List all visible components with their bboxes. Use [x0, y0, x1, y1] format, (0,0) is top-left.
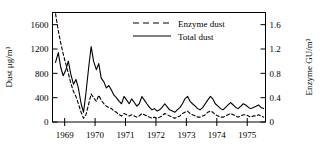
x-tick-label: 1973: [177, 130, 196, 140]
left-tick-label: 0: [44, 117, 49, 127]
right-tick-label: 0: [270, 117, 275, 127]
right-tick-label: 1.2: [270, 44, 281, 54]
left-tick-label: 800: [35, 69, 49, 79]
right-tick-label: 0.8: [270, 69, 282, 79]
x-tick-label: 1972: [147, 130, 165, 140]
right-axis-title: Enzyme GU/m³: [304, 38, 314, 95]
left-tick-label: 1200: [31, 44, 50, 54]
x-tick-label: 1970: [86, 130, 105, 140]
left-tick-label: 1600: [31, 20, 50, 30]
x-tick-label: 1969: [56, 130, 75, 140]
left-axis-title: Dust μg/m³: [4, 46, 14, 87]
x-tick-label: 1971: [117, 130, 135, 140]
chart-container: Dust μg/m³ Enzyme GU/m³ 040080012001600 …: [0, 0, 322, 148]
legend-label-enzyme-dust: Enzyme dust: [178, 19, 225, 29]
right-tick-label: 0.4: [270, 93, 282, 103]
right-tick-label: 1.6: [270, 20, 282, 30]
dust-enzyme-time-series-chart: Dust μg/m³ Enzyme GU/m³ 040080012001600 …: [0, 0, 322, 148]
x-tick-label: 1974: [208, 130, 227, 140]
legend-label-total-dust: Total dust: [178, 32, 214, 42]
left-tick-label: 400: [35, 93, 49, 103]
x-tick-label: 1975: [238, 130, 257, 140]
